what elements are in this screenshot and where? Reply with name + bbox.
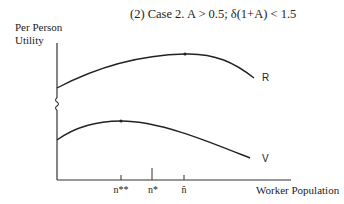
series-v-label: V (262, 153, 269, 164)
axis-break-icon (56, 98, 59, 110)
tick-label-n-star: n* (148, 184, 158, 195)
x-axis-label: Worker Population (256, 184, 339, 196)
tick-label-n-double-star: n** (114, 184, 129, 195)
series-v-max-marker (120, 120, 123, 123)
series-v-line (57, 121, 250, 158)
series-r-max-marker (184, 53, 187, 56)
series-r-line (57, 54, 254, 88)
plot-area (0, 0, 344, 204)
tick-label-n-tilde: ñ (182, 184, 187, 195)
series-r-label: R (262, 72, 269, 83)
